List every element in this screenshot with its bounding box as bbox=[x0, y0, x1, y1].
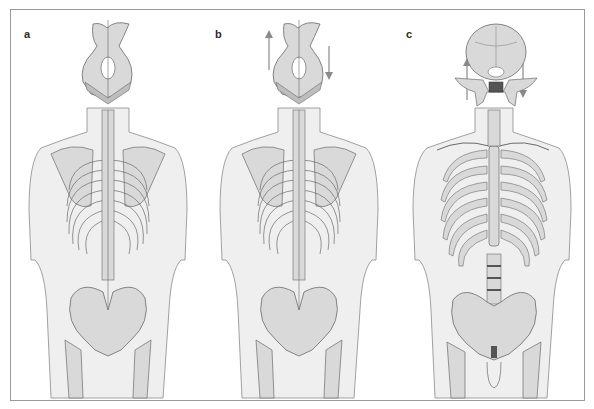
downward-arrow-icon bbox=[325, 46, 333, 80]
spine bbox=[102, 110, 114, 310]
panel-b: b bbox=[202, 10, 393, 400]
posterior-skeleton-illustration bbox=[202, 10, 393, 400]
upward-arrow-icon bbox=[265, 30, 273, 70]
anterior-skeleton-illustration bbox=[393, 10, 584, 400]
skull-base-icon bbox=[82, 20, 132, 104]
skull-base-icon bbox=[273, 20, 323, 104]
panel-c: c bbox=[393, 10, 584, 400]
panel-a: a bbox=[11, 10, 202, 400]
spine bbox=[293, 110, 305, 310]
sternum bbox=[489, 146, 499, 246]
posterior-skeleton-illustration bbox=[11, 10, 202, 400]
figure-frame: a bbox=[10, 9, 585, 401]
